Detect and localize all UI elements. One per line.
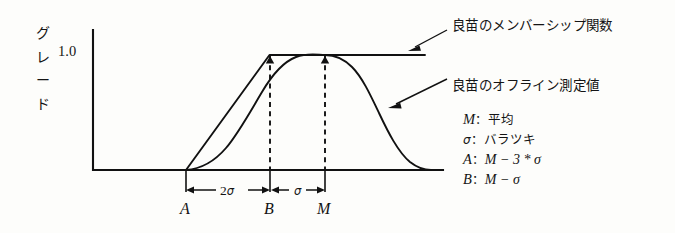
legend-symbol-m: M: [463, 111, 475, 127]
legend-symbol-a: A: [463, 151, 472, 167]
legend-row-sigma: σ：バラツキ: [463, 130, 541, 151]
leader-membership-function: [408, 30, 447, 51]
y-axis-label-char-3: ー: [33, 69, 53, 93]
legend-value-a: M − 3 * σ: [485, 152, 541, 167]
y-axis-label-char-2: レ: [33, 46, 53, 70]
legend-row-mean: M：平均: [463, 110, 541, 130]
y-axis-tick-label: 1.0: [58, 44, 76, 59]
legend-value-b: M − σ: [485, 172, 520, 187]
y-axis-label: グ レ ー ド: [33, 22, 53, 116]
leader-offline-measurement: [388, 79, 447, 108]
legend-separator-2: ：: [472, 152, 485, 167]
axis-mark-m: M: [317, 200, 330, 218]
dimension-label-a-to-b: 2σ: [220, 183, 234, 199]
axis-mark-b: B: [264, 200, 274, 218]
legend-value-sigma: バラツキ: [484, 132, 536, 147]
dimension-value-a-to-b: 2: [220, 183, 227, 198]
dimension-symbol-a-to-b: σ: [227, 184, 234, 198]
marker-m: [321, 56, 329, 64]
legend-row-b: B：M − σ: [463, 170, 541, 190]
y-axis-label-char-1: グ: [33, 22, 53, 46]
axis-mark-a: A: [180, 200, 190, 218]
plot-canvas: [0, 0, 675, 233]
legend-symbol-b: B: [463, 171, 472, 187]
axes: [93, 30, 443, 170]
figure-container: グ レ ー ド 1.0 良苗のメンバーシップ関数 良苗のオフライン測定値 M：平…: [0, 0, 675, 233]
legend: M：平均 σ：バラツキ A：M − 3 * σ B：M − σ: [463, 110, 541, 189]
dimension-symbol-b-to-m: σ: [294, 184, 301, 198]
dimension-label-b-to-m: σ: [294, 183, 301, 199]
legend-value-mean: 平均: [488, 112, 514, 127]
legend-separator-0: ：: [475, 112, 488, 127]
annotation-offline-measurement: 良苗のオフライン測定値: [452, 79, 599, 93]
annotation-membership-function: 良苗のメンバーシップ関数: [452, 19, 613, 33]
legend-symbol-sigma: σ: [463, 133, 471, 147]
legend-row-a: A：M − 3 * σ: [463, 150, 541, 170]
legend-separator-1: ：: [471, 132, 484, 147]
legend-separator-3: ：: [472, 172, 485, 187]
offline-measurement-curve: [186, 54, 431, 170]
y-axis-label-char-4: ド: [33, 93, 53, 117]
